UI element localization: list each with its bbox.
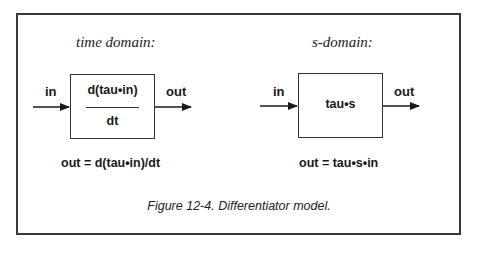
time-domain-equation: out = d(tau•in)/dt bbox=[61, 156, 160, 170]
s-domain-heading: s-domain: bbox=[312, 34, 373, 51]
time-domain-output-label: out bbox=[166, 84, 186, 99]
s-domain-output-label: out bbox=[394, 84, 414, 99]
s-domain-block: tau•s bbox=[298, 73, 383, 138]
time-domain-heading: time domain: bbox=[76, 34, 156, 51]
block-denominator: dt bbox=[71, 114, 154, 128]
s-domain-input-label: in bbox=[273, 84, 285, 99]
time-domain-block: d(tau•in) dt bbox=[70, 74, 155, 139]
figure-caption: Figure 12-4. Differentiator model. bbox=[0, 199, 478, 213]
time-domain-input-label: in bbox=[45, 84, 57, 99]
s-domain-equation: out = tau•s•in bbox=[299, 156, 378, 170]
block-numerator: d(tau•in) bbox=[71, 83, 154, 97]
fraction-bar bbox=[86, 107, 139, 108]
block-label: tau•s bbox=[299, 97, 382, 111]
